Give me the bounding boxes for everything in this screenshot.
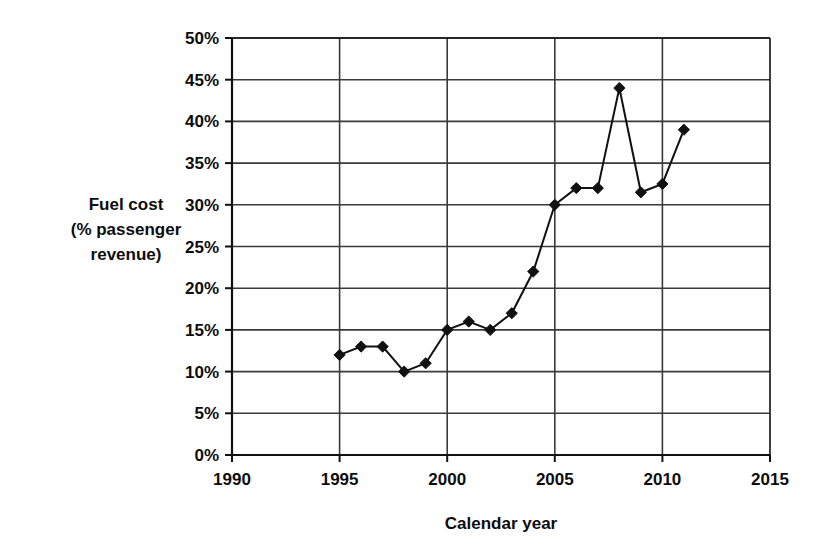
y-tick-label: 0% [194, 446, 219, 465]
x-tick-label: 2010 [643, 470, 681, 489]
x-tick-label: 2015 [751, 470, 789, 489]
y-tick-label: 25% [185, 238, 219, 257]
chart-page: 0%5%10%15%20%25%30%35%40%45%50% 19901995… [0, 0, 823, 554]
y-tick-label: 15% [185, 321, 219, 340]
y-axis-title-line: Fuel cost [89, 195, 164, 214]
y-tick-label: 10% [185, 363, 219, 382]
x-axis-title-text: Calendar year [445, 514, 558, 533]
fuel-cost-line-chart: 0%5%10%15%20%25%30%35%40%45%50% 19901995… [0, 0, 823, 554]
y-axis-title-line: revenue) [91, 245, 162, 264]
y-tick-label: 35% [185, 154, 219, 173]
y-tick-label: 5% [194, 404, 219, 423]
y-tick-label: 45% [185, 71, 219, 90]
x-tick-label: 2000 [428, 470, 466, 489]
x-tick-label: 2005 [536, 470, 574, 489]
chart-background [0, 0, 823, 554]
y-tick-label: 50% [185, 29, 219, 48]
y-tick-label: 40% [185, 112, 219, 131]
y-tick-label: 20% [185, 279, 219, 298]
x-tick-label: 1990 [213, 470, 251, 489]
x-axis-title: Calendar year [445, 514, 558, 533]
y-axis-title-line: (% passenger [71, 220, 182, 239]
x-tick-label: 1995 [321, 470, 359, 489]
y-tick-label: 30% [185, 196, 219, 215]
